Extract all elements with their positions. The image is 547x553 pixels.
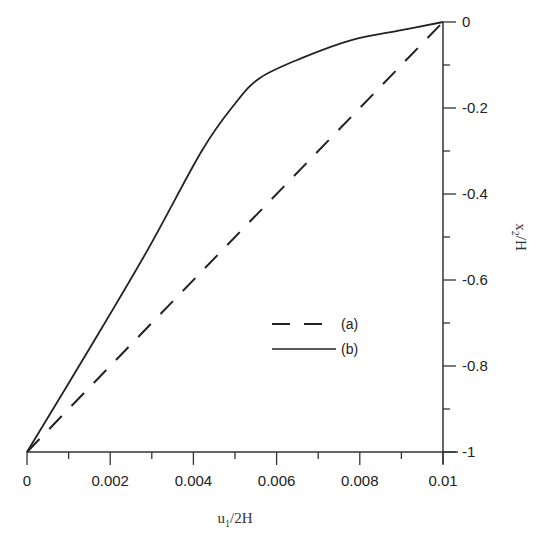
y-tick-label: -0.2 (462, 99, 488, 116)
legend-label-a: (a) (341, 316, 358, 332)
x-tick-label: 0.008 (341, 472, 379, 489)
x-tick-label: 0 (23, 472, 31, 489)
x-axis-title: u1/2H (218, 510, 253, 529)
series-a-line (27, 22, 443, 452)
y-tick-label: 0 (462, 13, 470, 30)
legend-label-b: (b) (341, 341, 358, 357)
chart: 00.0020.0040.0060.0080.01 0-0.2-0.4-0.6-… (0, 0, 547, 553)
y-tick-label: -1 (462, 443, 475, 460)
y-tick-label: -0.6 (462, 271, 488, 288)
y-axis-title: x2/H (510, 223, 529, 251)
y-axis: 0-0.2-0.4-0.6-0.8-1 (443, 13, 488, 464)
x-tick-label: 0.002 (91, 472, 129, 489)
x-tick-label: 0.01 (428, 472, 457, 489)
y-tick-label: -0.4 (462, 185, 488, 202)
x-tick-label: 0.004 (175, 472, 213, 489)
x-axis: 00.0020.0040.0060.0080.01 (23, 452, 458, 489)
y-tick-label: -0.8 (462, 357, 488, 374)
x-tick-label: 0.006 (258, 472, 296, 489)
legend: (a) (b) (272, 316, 358, 357)
plot-area (27, 22, 443, 452)
